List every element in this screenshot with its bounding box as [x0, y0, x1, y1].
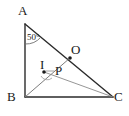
vertex-label-A: A — [18, 4, 27, 17]
vertex-label-C: C — [114, 90, 123, 103]
angle-label-A: 50° — [27, 33, 40, 42]
vertex-label-B: B — [7, 90, 16, 103]
point-label-O: O — [71, 43, 80, 56]
point-label-P: P — [55, 64, 62, 77]
segment-BO — [25, 58, 70, 97]
point-label-I: I — [40, 58, 44, 71]
geometry-figure: A B C O I P 50° — [0, 0, 129, 116]
